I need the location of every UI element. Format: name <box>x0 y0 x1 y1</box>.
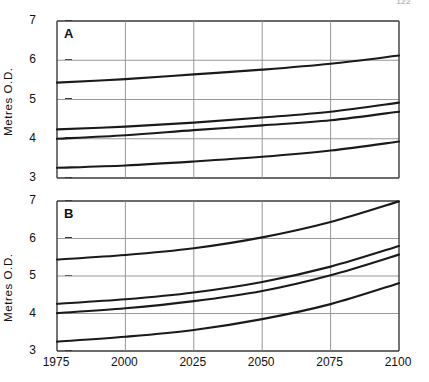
y-tick-label: 5 <box>29 269 36 281</box>
y-tick-label: 3 <box>29 171 36 183</box>
chart-svg <box>56 20 400 179</box>
x-tick-label: 2050 <box>248 356 275 368</box>
data-curve <box>57 283 399 342</box>
y-tick-label: 6 <box>29 232 36 244</box>
y-tick-label: 4 <box>29 132 36 144</box>
y-tick-label: 3 <box>29 344 36 356</box>
data-curve <box>57 103 399 130</box>
y-tick-label: 7 <box>29 194 36 206</box>
data-curve <box>57 246 399 304</box>
panel-label-b: B <box>64 206 73 221</box>
y-tick-label: 7 <box>29 14 36 26</box>
data-curve <box>57 142 399 168</box>
plot-area-a <box>56 20 398 177</box>
y-tick-label: 4 <box>29 307 36 319</box>
x-tick-label: 2075 <box>316 356 343 368</box>
data-curve <box>57 255 399 314</box>
data-curve <box>57 201 399 259</box>
x-tick-label: 2025 <box>179 356 206 368</box>
x-tick-label: 1975 <box>43 356 70 368</box>
y-axis-tick-labels-b: 34567 <box>20 200 36 350</box>
panel-label-a: A <box>64 26 73 41</box>
x-tick-label: 2100 <box>385 356 412 368</box>
y-axis-tick-labels-a: 34567 <box>20 20 36 177</box>
y-axis-title-a: Metres O.D. <box>2 42 20 162</box>
y-tick-label: 5 <box>29 93 36 105</box>
y-axis-title-b: Metres O.D. <box>2 228 20 348</box>
chart-svg <box>56 200 400 352</box>
data-curve <box>57 112 399 139</box>
chart-panel-b: Metres O.D. 34567 B 19752000202520502075… <box>0 190 429 382</box>
figure-page: 122 Metres O.D. 34567 A Metres O.D. 3456… <box>0 0 429 382</box>
data-curve <box>57 56 399 83</box>
y-tick-label: 6 <box>29 53 36 65</box>
chart-panel-a: Metres O.D. 34567 A <box>0 0 429 190</box>
plot-area-b <box>56 200 398 350</box>
x-tick-label: 2000 <box>111 356 138 368</box>
